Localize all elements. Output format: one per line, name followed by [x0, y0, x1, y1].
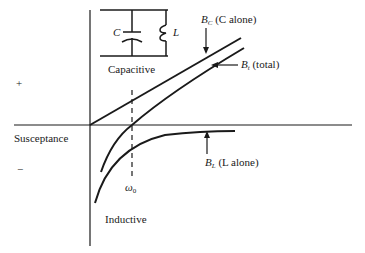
inductor-label: L [173, 27, 179, 38]
inductive-label: Inductive [105, 214, 147, 225]
susceptance-diagram [0, 0, 365, 253]
bl-subscript: L [212, 162, 216, 170]
bt-subscript: t [248, 64, 250, 72]
bc-description: (C alone) [215, 13, 256, 25]
positive-sign: + [16, 78, 22, 89]
lc-circuit [100, 10, 168, 56]
bc-symbol: B [201, 13, 208, 25]
bt-label: Bt (total) [241, 59, 279, 72]
omega0-label: ω0 [125, 182, 136, 195]
omega-subscript: 0 [133, 187, 137, 195]
bc-arrowhead [203, 47, 209, 54]
bt-symbol: B [241, 58, 248, 70]
bc-subscript: C [208, 19, 213, 27]
bl-symbol: B [205, 156, 212, 168]
negative-sign: − [17, 164, 23, 175]
bc-label: BC (C alone) [201, 14, 256, 27]
capacitive-caption: Capacitive [108, 64, 155, 75]
omega-symbol: ω [125, 181, 133, 193]
susceptance-axis-label: Susceptance [14, 133, 68, 144]
capacitor-label: C [113, 27, 120, 38]
bl-description: (L alone) [218, 156, 258, 168]
bt-description: (total) [252, 58, 279, 70]
bl-label: BL (L alone) [205, 157, 259, 170]
